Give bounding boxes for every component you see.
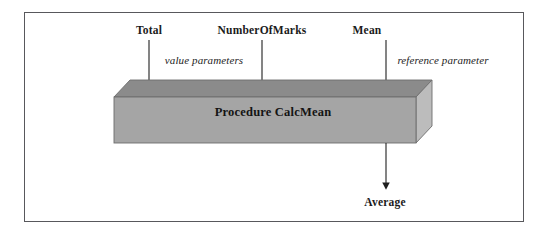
diagram-canvas: Total NumberOfMarks Mean value parameter… — [0, 0, 549, 237]
label-procedure-name: Procedure CalcMean — [215, 106, 332, 119]
annotation-reference-parameter: reference parameter — [397, 55, 488, 66]
label-parameter-numberofmarks: NumberOfMarks — [218, 25, 307, 37]
annotation-value-parameters: value parameters — [165, 55, 243, 66]
label-output-average: Average — [364, 197, 405, 209]
label-parameter-total: Total — [136, 25, 162, 37]
label-parameter-mean: Mean — [353, 25, 382, 37]
procedure-box-top-face — [114, 80, 432, 97]
